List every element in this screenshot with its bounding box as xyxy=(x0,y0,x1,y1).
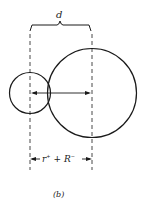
radius-arrowhead-right xyxy=(86,157,92,161)
figure-caption: (b) xyxy=(53,190,64,199)
distance-label-d: d xyxy=(56,9,62,20)
ion-contact-diagram: d r++R− (b) xyxy=(0,0,143,205)
arrowhead-right xyxy=(85,91,91,95)
radius-r-charge: + xyxy=(46,153,50,159)
radius-sum-label: r++R− xyxy=(42,153,75,164)
radius-R-charge: − xyxy=(71,153,75,159)
top-brace xyxy=(30,21,91,31)
arrowhead-left xyxy=(31,91,37,95)
radius-arrowhead-left xyxy=(30,157,36,161)
plus-sign: + xyxy=(54,154,62,164)
